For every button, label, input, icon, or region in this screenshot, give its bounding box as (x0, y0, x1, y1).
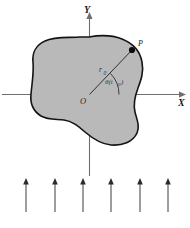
figure-container: Y X O P r 0 θ(t 0 ) (0, 0, 190, 228)
radius-label: r (99, 65, 102, 74)
point-p-label: P (137, 39, 143, 48)
point-p-marker (129, 47, 135, 53)
physics-diagram: Y X O P r 0 θ(t 0 ) (0, 0, 190, 228)
y-axis-label: Y (84, 4, 91, 15)
angle-label: θ(t (105, 78, 114, 86)
origin-label: O (80, 96, 86, 106)
radius-subscript: 0 (104, 70, 107, 76)
x-axis-label: X (177, 97, 185, 108)
